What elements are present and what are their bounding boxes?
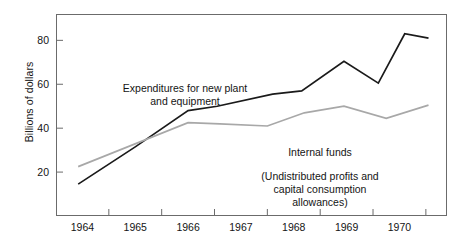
annotation-internal-funds: Internal funds bbox=[288, 146, 352, 159]
figure: Billions of dollars 20406080 19641965196… bbox=[0, 0, 475, 247]
annotation-internal-funds-detail: (Undistributed profits and capital consu… bbox=[261, 170, 378, 209]
series-line-internal-funds bbox=[78, 105, 428, 166]
data-series bbox=[78, 34, 428, 184]
series-line-expenditures bbox=[78, 34, 428, 184]
annotation-expenditures: Expenditures for new plant and equipment bbox=[123, 82, 247, 108]
chart-canvas bbox=[0, 0, 475, 247]
